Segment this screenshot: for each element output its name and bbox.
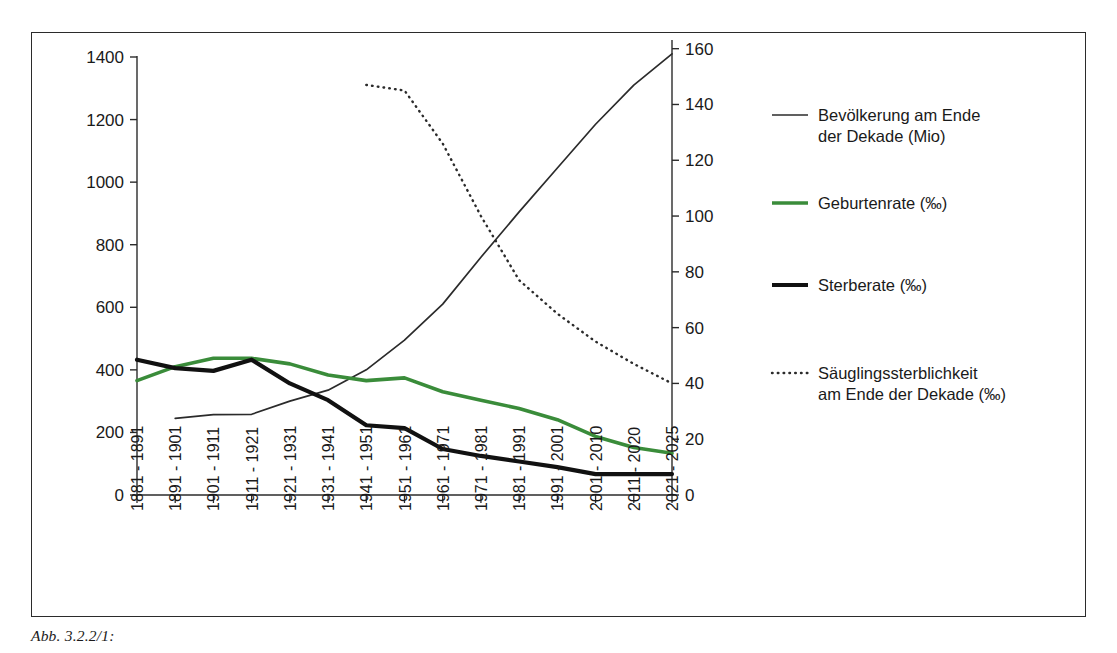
legend-label-death-rate: Sterberate (‰): [818, 276, 927, 294]
chart-canvas: 0200400600800100012001400020406080100120…: [0, 0, 1117, 653]
right-axis-tick-label: 60: [685, 319, 704, 338]
left-axis-tick-label: 200: [96, 423, 124, 442]
x-axis-tick-label: 1921 - 1931: [282, 425, 299, 511]
legend-item-death-rate: Sterberate (‰): [772, 276, 927, 294]
legend-item-population: Bevölkerung am Endeder Dekade (Mio): [772, 106, 980, 145]
x-axis-tick-label: 1981 - 1991: [511, 425, 528, 511]
right-axis-tick-label: 100: [685, 207, 713, 226]
right-axis-tick-label: 80: [685, 263, 704, 282]
x-axis-tick-label: 1891 - 1901: [167, 425, 184, 511]
legend-item-birth-rate: Geburtenrate (‰): [772, 194, 947, 212]
series-layer: [137, 54, 672, 474]
x-axis-labels: 1881 - 18911891 - 19011901 - 19111911 - …: [129, 425, 681, 511]
x-axis-tick-label: 1911 - 1921: [244, 427, 261, 511]
x-axis-tick-label: 1931 - 1941: [320, 425, 337, 511]
right-axis-tick-label: 40: [685, 374, 704, 393]
x-axis-tick-label: 1881 - 1891: [129, 425, 146, 511]
right-axis-tick-label: 0: [685, 486, 694, 505]
left-axis-tick-label: 800: [96, 236, 124, 255]
x-axis-tick-label: 2001 - 2010: [588, 425, 605, 511]
x-axis-tick-label: 1901 - 1911: [205, 427, 222, 511]
legend-label-population: Bevölkerung am Ende: [818, 106, 980, 124]
chart-legend: Bevölkerung am Endeder Dekade (Mio)Gebur…: [772, 106, 1006, 403]
legend-label-birth-rate: Geburtenrate (‰): [818, 194, 947, 212]
legend-label-infant-mortality: Säuglingssterblichkeit: [818, 364, 978, 382]
left-axis-tick-label: 600: [96, 298, 124, 317]
left-axis-tick-label: 1200: [86, 111, 124, 130]
x-axis-tick-label: 1971 - 1981: [473, 425, 490, 511]
right-axis-tick-label: 140: [685, 95, 713, 114]
right-axis-tick-label: 120: [685, 151, 713, 170]
x-axis-tick-label: 2021 - 2025: [664, 425, 681, 511]
legend-label-infant-mortality-line2: am Ende der Dekade (‰): [818, 385, 1006, 403]
series-line: [366, 85, 672, 383]
x-axis-tick-label: 1941 - 1951: [358, 425, 375, 511]
x-axis-tick-label: 2011 - 2020: [626, 427, 643, 511]
legend-label-population-line2: der Dekade (Mio): [818, 127, 945, 145]
right-axis-tick-label: 20: [685, 430, 704, 449]
series-line: [175, 54, 672, 418]
figure-caption: Abb. 3.2.2/1:: [31, 627, 115, 645]
left-axis-tick-label: 400: [96, 361, 124, 380]
left-axis-tick-label: 0: [115, 486, 124, 505]
left-axis-tick-label: 1400: [86, 48, 124, 67]
x-axis-tick-label: 1951 - 1961: [397, 425, 414, 511]
legend-item-infant-mortality: Säuglingssterblichkeitam Ende der Dekade…: [772, 364, 1006, 403]
right-axis-tick-label: 160: [685, 40, 713, 59]
x-axis-tick-label: 1961 - 1971: [435, 425, 452, 511]
left-axis-tick-label: 1000: [86, 173, 124, 192]
x-axis-tick-label: 1991 - 2001: [549, 425, 566, 511]
figure-root: 0200400600800100012001400020406080100120…: [0, 0, 1117, 653]
